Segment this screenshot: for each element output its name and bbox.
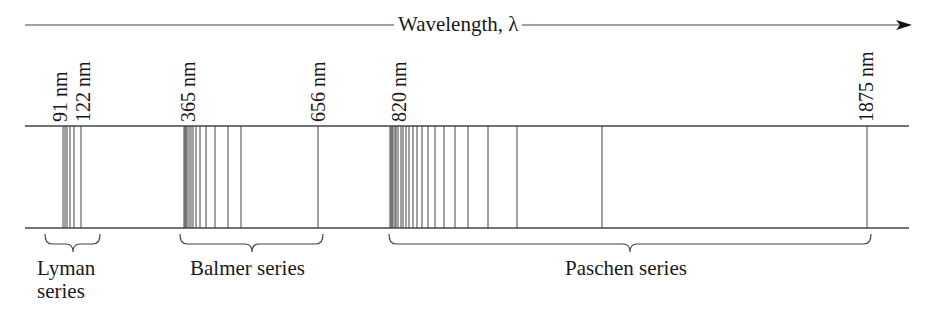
brace-paschen	[389, 234, 871, 252]
axis-title: Wavelength, λ	[394, 12, 522, 36]
lyman-label-line-2: series	[37, 280, 95, 303]
lyman-series-label: Lyman series	[37, 257, 95, 303]
wavelength-label-820: 820 nm	[389, 61, 409, 122]
wavelength-label-122: 122 nm	[73, 61, 93, 122]
brace-balmer	[180, 234, 323, 252]
wavelength-label-365: 365 nm	[178, 61, 198, 122]
balmer-series-label: Balmer series	[190, 257, 305, 280]
wavelength-label-1875: 1875 nm	[856, 51, 876, 122]
lyman-label-line-1: Lyman	[37, 257, 95, 280]
spectrum-graphic	[0, 0, 936, 323]
paschen-series-label: Paschen series	[565, 257, 687, 280]
spectral-lines	[63, 126, 867, 228]
series-braces	[45, 234, 871, 252]
brace-lyman	[45, 234, 100, 252]
wavelength-label-656: 656 nm	[308, 61, 328, 122]
wavelength-label-91: 91 nm	[50, 71, 70, 122]
hydrogen-spectrum-diagram: Wavelength, λ 91 nm 122 nm 365 nm 656 nm…	[0, 0, 936, 323]
